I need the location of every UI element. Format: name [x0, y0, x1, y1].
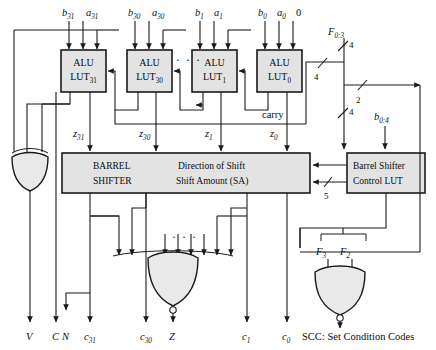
svg-text:b0:4: b0:4: [374, 111, 389, 125]
alu-barrel-shifter-diagram: b31 a31 b30 a30 b1 a1 b0 a0 0: [0, 0, 436, 350]
shift-amount-label: Shift Amount (SA): [176, 176, 248, 187]
svg-text:a1: a1: [214, 7, 223, 21]
svg-text:F2: F2: [339, 246, 350, 260]
svg-text:b31: b31: [62, 7, 74, 21]
xor-gate-v: [12, 149, 48, 323]
carry-in-constant: 0: [296, 7, 301, 18]
svg-text:N: N: [61, 331, 70, 342]
output-labels: V C N N c31 c30 Z c1 c0 SCC: Set Conditi…: [26, 331, 414, 345]
barrel-shifter-box[interactable]: BARREL SHIFTER Direction of Shift Shift …: [62, 153, 310, 193]
operand-label-1: b1 a1: [195, 7, 223, 21]
two-width: 2: [356, 95, 361, 105]
svg-text:c30: c30: [140, 331, 152, 345]
alu-lut-0[interactable]: ALU LUT0: [257, 50, 302, 92]
figure-canvas: b31 a31 b30 a30 b1 a1 b0 a0 0: [0, 0, 436, 350]
svg-text:z0: z0: [269, 128, 278, 142]
v-c-taps: [27, 92, 70, 322]
alu1-input-arrows: [200, 21, 228, 49]
nor-gate-scc: F3 F2: [315, 228, 366, 328]
operand-label-0: b0 a0 0: [258, 7, 301, 21]
alu-lut-30[interactable]: ALU LUT30: [127, 50, 172, 92]
alu-ellipsis: · · ·: [176, 53, 202, 67]
f-left-width: 4: [314, 72, 319, 82]
control-lut-line2: Control LUT: [353, 176, 403, 186]
output-C: C: [52, 331, 60, 342]
svg-text:F0:3: F0:3: [327, 26, 344, 40]
output-Z: Z: [169, 331, 175, 342]
svg-text:b0: b0: [258, 7, 267, 21]
alu0-input-arrows: [265, 21, 293, 49]
svg-text:a0: a0: [277, 7, 286, 21]
operand-label-31: b31 a31: [62, 7, 98, 21]
svg-text:a31: a31: [86, 7, 98, 21]
control-lut-feedback: [300, 193, 420, 252]
svg-text:F3: F3: [315, 246, 326, 260]
svg-text:c1: c1: [242, 331, 250, 345]
alu-lut-31-line1: ALU: [73, 57, 94, 68]
alu31-input-arrows: [69, 21, 97, 49]
control-lut-line1: Barrel Shifter: [353, 161, 406, 171]
alu-lut-30-line1: ALU: [139, 57, 160, 68]
direction-of-shift-label: Direction of Shift: [178, 161, 245, 171]
alu-lut-0-line1: ALU: [269, 57, 290, 68]
alu-lut-1-line1: ALU: [204, 57, 225, 68]
svg-text:b30: b30: [128, 7, 141, 21]
z-fan-ellipsis: · · ·: [172, 230, 198, 244]
alu30-input-arrows: [135, 21, 163, 49]
barrel-shifter-line1: BARREL: [93, 161, 131, 171]
svg-text:c0: c0: [282, 331, 291, 345]
barrel-shifter-line2: SHIFTER: [93, 176, 132, 186]
svg-text:z31: z31: [72, 128, 84, 142]
carry-label: carry: [262, 109, 284, 120]
svg-text:a30: a30: [152, 7, 165, 21]
f-bus-network: F0:3 4 4 2 4 b0:4: [306, 26, 420, 252]
scc-legend: SCC: Set Condition Codes: [302, 331, 414, 342]
svg-text:z30: z30: [138, 128, 151, 142]
f-lower-width: 4: [349, 107, 354, 117]
barrel-shifter-control-lut[interactable]: Barrel Shifter Control LUT: [347, 153, 425, 193]
alu-lut-31[interactable]: ALU LUT31: [61, 50, 106, 92]
operand-label-30: b30 a30: [128, 7, 165, 21]
svg-text:z1: z1: [204, 128, 213, 142]
f-top-width: 4: [349, 40, 354, 50]
control-arrows: 5: [313, 165, 347, 201]
svg-text:c31: c31: [84, 331, 96, 345]
output-V: V: [26, 331, 34, 342]
sa-width-label: 5: [324, 191, 329, 201]
nor-gate-z: [113, 251, 233, 322]
svg-text:b1: b1: [195, 7, 204, 21]
